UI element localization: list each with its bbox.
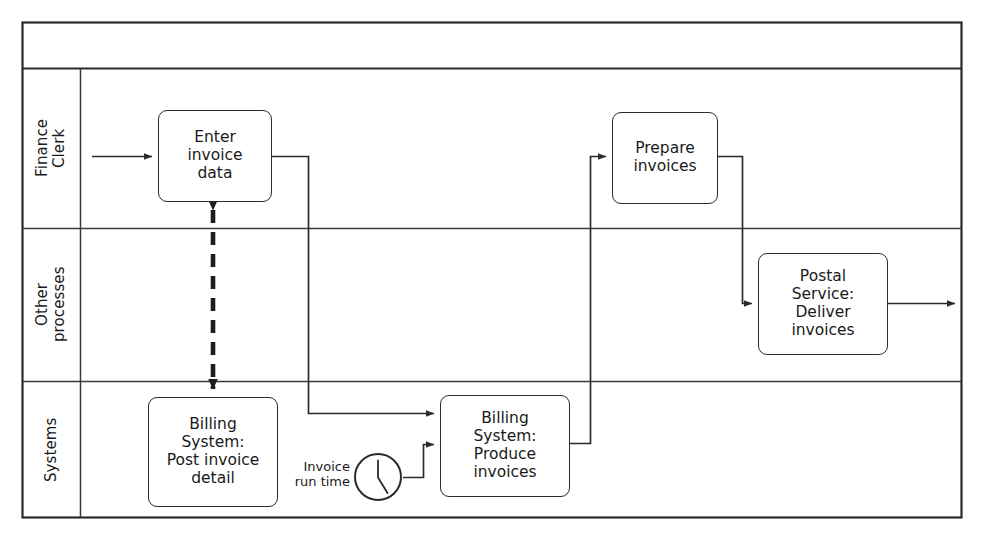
task-postal-service-deliver-invoices[interactable]: Postal Service: Deliver invoices <box>758 253 888 355</box>
task-prepare-invoices[interactable]: Prepare invoices <box>612 112 718 204</box>
lane-label-other-processes: Other processes <box>22 228 80 381</box>
flow-prepare-to-postal <box>718 157 752 304</box>
flow-produce-to-prepare <box>570 157 606 444</box>
task-produce-invoices[interactable]: Billing System: Produce invoices <box>440 395 570 497</box>
timer-event-icon <box>355 454 401 500</box>
timer-event-label: Invoice run time <box>282 460 350 490</box>
task-enter-invoice-data[interactable]: Enter invoice data <box>158 110 272 202</box>
lane-label-systems: Systems <box>22 381 80 518</box>
task-post-invoice-detail[interactable]: Billing System: Post invoice detail <box>148 397 278 507</box>
flow-timer-to-produce <box>403 445 434 478</box>
diagram-canvas: Finance Clerk Other processes Systems En… <box>0 0 986 541</box>
lane-label-finance-clerk: Finance Clerk <box>22 68 80 228</box>
flow-enter-to-produce <box>272 157 434 414</box>
